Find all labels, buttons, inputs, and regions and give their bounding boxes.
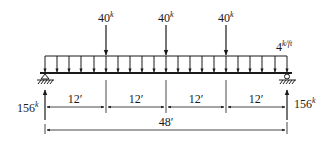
roller-support-icon <box>279 74 296 84</box>
beam-diagram: 40k 40k 40k 4k/ft 156k 156k <box>0 0 331 147</box>
point-loads <box>106 25 226 55</box>
right-reaction-label: 156k <box>294 96 316 111</box>
segment-label-2: 12′ <box>129 92 144 106</box>
point-load-label-3: 40k <box>218 10 234 25</box>
pin-support-icon <box>37 74 54 84</box>
distributed-load-label: 4k/ft <box>276 39 293 54</box>
point-load-label-1: 40k <box>98 10 114 25</box>
point-load-label-2: 40k <box>158 10 174 25</box>
segment-label-4: 12′ <box>249 92 264 106</box>
segment-label-3: 12′ <box>189 92 204 106</box>
left-reaction-label: 156k <box>17 100 39 115</box>
total-span-label: 48′ <box>159 115 174 129</box>
distributed-load-arrows <box>45 56 287 72</box>
segment-label-1: 12′ <box>68 92 83 106</box>
